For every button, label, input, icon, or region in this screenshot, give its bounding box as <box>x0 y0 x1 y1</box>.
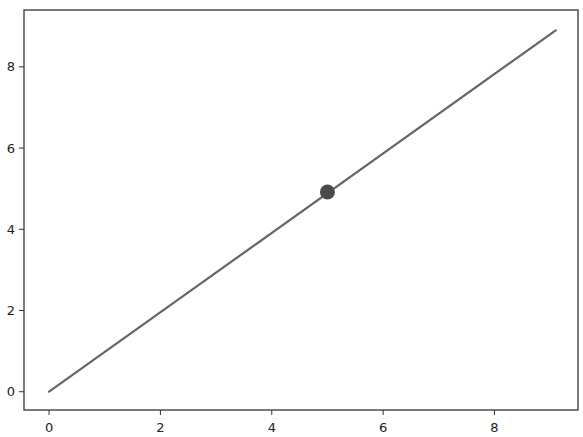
x-tick-label: 6 <box>379 420 387 435</box>
series-line <box>49 30 556 391</box>
line-chart: 02468 02468 <box>0 0 583 437</box>
y-tick-label: 4 <box>7 222 15 237</box>
x-axis: 02468 <box>45 410 499 435</box>
x-tick-label: 4 <box>268 420 276 435</box>
y-tick-label: 0 <box>7 384 15 399</box>
series-layer <box>49 30 556 391</box>
data-point-marker <box>320 184 335 199</box>
y-tick-label: 2 <box>7 303 15 318</box>
y-axis: 02468 <box>7 59 24 399</box>
y-tick-label: 8 <box>7 59 15 74</box>
x-tick-label: 8 <box>490 420 498 435</box>
x-tick-label: 0 <box>45 420 53 435</box>
y-tick-label: 6 <box>7 141 15 156</box>
x-tick-label: 2 <box>156 420 164 435</box>
